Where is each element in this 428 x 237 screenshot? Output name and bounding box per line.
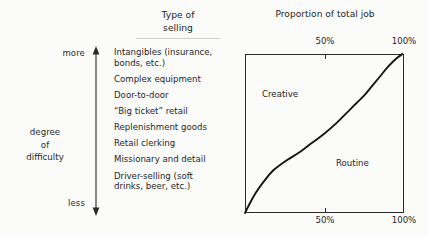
bottom-axis-tick-50 [325, 208, 326, 213]
region-label-creative: Creative [262, 89, 298, 99]
region-label-routine: Routine [336, 158, 369, 168]
top-axis-label-100: 100% [384, 36, 424, 46]
difficulty-axis-label: degree of difficulty [6, 126, 84, 164]
list-item: Door-to-door [114, 90, 238, 101]
difficulty-axis-top-label: more [33, 48, 85, 58]
top-axis-tick-50 [325, 54, 326, 59]
heading-underline [136, 38, 220, 39]
list-item: Intangibles (insurance, bonds, etc.) [114, 47, 238, 69]
list-item: Driver-selling (soft drinks, beer, etc.) [114, 171, 238, 193]
list-item: “Big ticket” retail [114, 106, 238, 117]
difficulty-axis-bottom-label: less [33, 198, 85, 208]
bottom-axis-label-50: 50% [305, 215, 345, 225]
list-item: Replenishment goods [114, 122, 238, 133]
list-item: Complex equipment [114, 74, 238, 85]
double-headed-vertical-arrow-icon [88, 46, 104, 216]
bottom-axis-label-100: 100% [384, 215, 424, 225]
selling-difficulty-figure: more less degree of difficulty Type of s… [0, 0, 428, 237]
creative-routine-boundary-curve [245, 54, 404, 213]
list-item: Retail clerking [114, 138, 238, 149]
selling-types-list: Intangibles (insurance, bonds, etc.) Com… [114, 47, 238, 198]
list-item: Missionary and detail [114, 154, 238, 165]
type-of-selling-heading: Type of selling [126, 8, 230, 35]
chart-title: Proportion of total job [243, 9, 407, 20]
top-axis-label-50: 50% [305, 36, 345, 46]
